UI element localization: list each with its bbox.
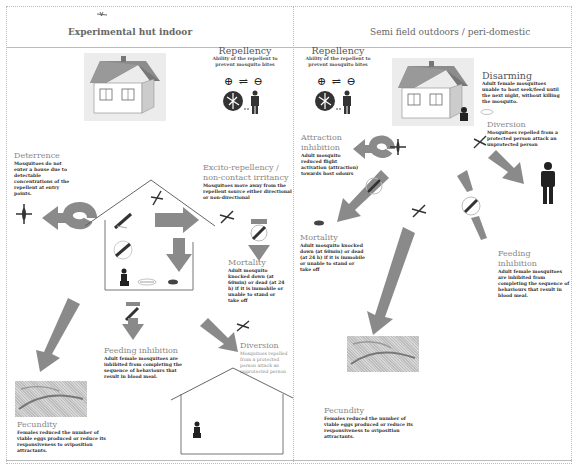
mosquito-knocked-icon (313, 218, 325, 226)
left-fecundity-block: Fecundity Females reduced the number of … (17, 420, 107, 454)
mosquito-dead-icon (480, 108, 494, 116)
left-mortality-title: Mortality (228, 258, 286, 268)
mortality-icon (248, 219, 270, 261)
arrow-diagonal-down-right-icon (488, 150, 524, 186)
arrow-diagonal-down-right-icon (200, 318, 240, 354)
mosquito-person-icon (314, 89, 354, 115)
left-repellency-block: Repellency Ability of the repellent to p… (205, 46, 285, 68)
section-title-outdoor: Semi field outdoors / peri-domestic (370, 27, 530, 37)
excito-repellency-desc: Mosquitoes move away from the repellent … (203, 183, 293, 201)
right-repellency-title: Repellency (300, 46, 376, 56)
disarming-title: Disarming (482, 71, 562, 81)
deterrence-desc: Mosquitoes do not enter a house due to d… (14, 161, 70, 197)
mosquito-icon (390, 139, 406, 155)
mosquito-on-net-icon (112, 240, 134, 260)
mosquito-icon (236, 320, 250, 332)
house-illustration (84, 53, 166, 121)
mosquito-icon (14, 204, 34, 224)
mosquito-icon (411, 203, 427, 219)
arrow-down-icon (166, 238, 192, 272)
bottom-divider (6, 460, 572, 461)
mosquito-icon (150, 190, 164, 206)
right-mortality-title: Mortality (300, 233, 366, 243)
deterrence-title: Deterrence (14, 151, 70, 161)
left-repellency-desc: Ability of the repellent to prevent mosq… (205, 56, 285, 68)
deterrence-block: Deterrence Mosquitoes do not enter a hou… (14, 151, 70, 197)
section-title-indoor: Experimental hut indoor (68, 27, 192, 37)
left-diversion-title: Diversion (240, 341, 292, 351)
section-divider (293, 6, 294, 464)
right-mortality-desc: Adult mosquito knocked down (at 60min) o… (300, 243, 366, 273)
mortality-icon (364, 176, 384, 196)
standing-person-icon (539, 162, 557, 206)
second-hut-outline (171, 368, 293, 454)
excito-repellency-block: Excito-repellency / non-contact irritanc… (203, 163, 293, 201)
right-feeding-desc: Adult female mosquitoes are inhibited fr… (498, 269, 570, 299)
plus-minus-exchange-icon: ⊕ ⇌ ⊖ (317, 75, 357, 88)
plus-minus-exchange-icon: ⊕ ⇌ ⊖ (224, 75, 264, 88)
excito-repellency-title: Excito-repellency / non-contact irritanc… (203, 163, 293, 183)
seated-person-icon (118, 268, 132, 288)
header-divider (6, 47, 572, 48)
mosquito-icon (113, 212, 135, 230)
mosquito-icon (96, 10, 108, 18)
attraction-inhibition-title: Attraction inhibition (301, 133, 361, 153)
right-diversion-desc: Mosquitoes repelled from a protected per… (487, 130, 569, 148)
mosquito-icon (219, 209, 235, 225)
arrow-diagonal-down-left-icon (36, 298, 82, 372)
eggs-photo-detail (347, 336, 419, 372)
feeding-arrow-icon (457, 170, 487, 242)
seated-person-icon (191, 421, 203, 439)
left-fecundity-title: Fecundity (17, 420, 107, 430)
right-fecundity-block: Fecundity Females reduced the number of … (324, 406, 414, 440)
right-feeding-block: Feeding inhibition Adult female mosquito… (498, 249, 570, 299)
disarming-desc: Adult female mosquitoes unable to host s… (482, 81, 562, 105)
feeding-icon (122, 302, 144, 342)
mosquito-icon (473, 135, 487, 149)
disarming-block: Disarming Adult female mosquitoes unable… (482, 71, 562, 105)
right-mortality-block: Mortality Adult mosquito knocked down (a… (300, 233, 366, 273)
left-feeding-title: Feeding inhibition (104, 346, 182, 356)
right-feeding-title: Feeding inhibition (498, 249, 570, 269)
left-mortality-block: Mortality Adult mosquito knocked down (a… (228, 258, 286, 304)
eggs-photo-detail (15, 381, 87, 417)
right-diversion-block: Diversion Mosquitoes repelled from a pro… (487, 120, 569, 148)
right-fecundity-desc: Females reduced the number of viable egg… (324, 416, 414, 440)
mosquito-dead-icon (137, 277, 157, 287)
mosquito-knocked-icon (166, 277, 180, 285)
right-diversion-title: Diversion (487, 120, 569, 130)
right-repellency-block: Repellency Ability of the repellent to p… (300, 46, 376, 68)
left-repellency-title: Repellency (205, 46, 285, 56)
left-fecundity-desc: Females reduced the number of viable egg… (17, 430, 107, 454)
u-turn-arrow-icon (353, 135, 393, 163)
house-with-person-illustration (392, 58, 474, 126)
arrow-right-icon (155, 207, 199, 233)
left-mortality-desc: Adult mosquito knocked down (at 60min) o… (228, 268, 286, 304)
right-repellency-desc: Ability of the repellent to prevent mosq… (300, 56, 376, 68)
mosquito-person-icon (222, 89, 262, 115)
right-fecundity-title: Fecundity (324, 406, 414, 416)
arrow-long-down-left-icon (367, 227, 415, 335)
